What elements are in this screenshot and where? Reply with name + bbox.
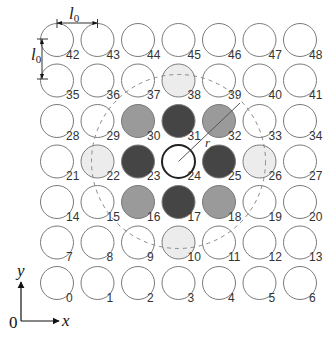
site-index-label: 31 bbox=[188, 129, 202, 143]
lattice-site: 46 bbox=[203, 24, 242, 62]
site-index-label: 14 bbox=[66, 210, 80, 224]
site-index-label: 2 bbox=[147, 291, 154, 305]
site-index-label: 23 bbox=[147, 169, 161, 183]
site-index-label: 12 bbox=[269, 250, 283, 264]
site-index-label: 38 bbox=[188, 88, 202, 102]
lattice-site: 28 bbox=[41, 105, 80, 143]
site-index-label: 16 bbox=[147, 210, 161, 224]
lattice-site: 3 bbox=[162, 267, 195, 305]
lattice-site: 40 bbox=[243, 64, 282, 102]
lattice-site: 12 bbox=[243, 226, 282, 264]
lattice-site: 2 bbox=[122, 267, 155, 305]
lattice-site: 38 bbox=[162, 64, 201, 102]
lattice-site: 41 bbox=[284, 64, 323, 102]
lattice-site: 25 bbox=[203, 145, 242, 183]
site-index-label: 4 bbox=[228, 291, 235, 305]
lattice-site: 24 bbox=[162, 145, 201, 183]
site-index-label: 30 bbox=[147, 129, 161, 143]
lattice-diagram: 0123456789101112131415161718192021222324… bbox=[0, 0, 334, 339]
site-index-label: 48 bbox=[309, 48, 323, 62]
lattice-site: 5 bbox=[243, 267, 276, 305]
lattice-site: 8 bbox=[81, 226, 114, 264]
lattice-site: 9 bbox=[122, 226, 155, 264]
lattice-site: 26 bbox=[243, 145, 282, 183]
site-index-label: 35 bbox=[66, 88, 80, 102]
site-index-label: 44 bbox=[147, 48, 161, 62]
site-index-label: 15 bbox=[107, 210, 121, 224]
site-index-label: 39 bbox=[228, 88, 242, 102]
site-index-label: 46 bbox=[228, 48, 242, 62]
x-axis-label: x bbox=[61, 311, 70, 330]
lattice-site: 21 bbox=[41, 145, 80, 183]
site-index-label: 34 bbox=[309, 129, 323, 143]
site-index-label: 0 bbox=[66, 291, 73, 305]
lattice-site: 31 bbox=[162, 105, 201, 143]
lattice-cells: 0123456789101112131415161718192021222324… bbox=[41, 24, 323, 305]
site-index-label: 42 bbox=[66, 48, 80, 62]
cutoff-radius-label: rc bbox=[205, 135, 214, 152]
lattice-site: 16 bbox=[122, 186, 161, 224]
lattice-site: 4 bbox=[203, 267, 236, 305]
lattice-site: 48 bbox=[284, 24, 323, 62]
lattice-site: 30 bbox=[122, 105, 161, 143]
lattice-site: 1 bbox=[81, 267, 114, 305]
site-index-label: 1 bbox=[107, 291, 114, 305]
lattice-site: 11 bbox=[203, 226, 241, 264]
site-index-label: 7 bbox=[66, 250, 73, 264]
site-index-label: 3 bbox=[188, 291, 195, 305]
site-index-label: 8 bbox=[107, 250, 114, 264]
site-index-label: 27 bbox=[309, 169, 323, 183]
site-index-label: 17 bbox=[188, 210, 202, 224]
lattice-site: 6 bbox=[284, 267, 317, 305]
site-index-label: 41 bbox=[309, 88, 323, 102]
y-axis-label: y bbox=[15, 261, 25, 280]
lattice-site: 7 bbox=[41, 226, 74, 264]
site-index-label: 11 bbox=[228, 250, 241, 264]
site-index-label: 40 bbox=[269, 88, 283, 102]
lattice-site: 0 bbox=[41, 267, 74, 305]
site-index-label: 20 bbox=[309, 210, 323, 224]
lattice-site: 20 bbox=[284, 186, 323, 224]
site-index-label: 43 bbox=[107, 48, 121, 62]
site-index-label: 6 bbox=[309, 291, 316, 305]
site-index-label: 37 bbox=[147, 88, 161, 102]
site-index-label: 33 bbox=[269, 129, 283, 143]
lattice-site: 15 bbox=[81, 186, 120, 224]
site-index-label: 19 bbox=[269, 210, 283, 224]
lattice-site: 10 bbox=[162, 226, 201, 264]
lattice-site: 23 bbox=[122, 145, 161, 183]
site-index-label: 5 bbox=[269, 291, 276, 305]
site-index-label: 47 bbox=[269, 48, 283, 62]
site-index-label: 45 bbox=[188, 48, 202, 62]
site-index-label: 29 bbox=[107, 129, 121, 143]
lattice-site: 44 bbox=[122, 24, 161, 62]
lattice-site: 34 bbox=[284, 105, 323, 143]
site-index-label: 26 bbox=[269, 169, 283, 183]
site-index-label: 18 bbox=[228, 210, 242, 224]
lattice-site: 47 bbox=[243, 24, 282, 62]
site-index-label: 24 bbox=[188, 169, 202, 183]
lattice-site: 36 bbox=[81, 64, 120, 102]
site-index-label: 13 bbox=[309, 250, 323, 264]
lattice-site: 17 bbox=[162, 186, 201, 224]
lattice-site: 42 bbox=[41, 24, 80, 62]
origin-label: 0 bbox=[9, 313, 18, 332]
lattice-site: 27 bbox=[284, 145, 323, 183]
site-index-label: 9 bbox=[147, 250, 154, 264]
site-index-label: 32 bbox=[228, 129, 242, 143]
lattice-site: 18 bbox=[203, 186, 242, 224]
lattice-site: 45 bbox=[162, 24, 201, 62]
vertical-spacing-label: l0 bbox=[31, 45, 42, 65]
lattice-site: 43 bbox=[81, 24, 120, 62]
site-index-label: 28 bbox=[66, 129, 80, 143]
site-index-label: 36 bbox=[107, 88, 121, 102]
horizontal-spacing-label: l0 bbox=[69, 4, 80, 24]
site-index-label: 25 bbox=[228, 169, 242, 183]
lattice-site: 22 bbox=[81, 145, 120, 183]
lattice-site: 14 bbox=[41, 186, 80, 224]
site-index-label: 21 bbox=[66, 169, 80, 183]
site-index-label: 22 bbox=[107, 169, 121, 183]
site-index-label: 10 bbox=[188, 250, 202, 264]
lattice-site: 35 bbox=[41, 64, 80, 102]
lattice-site: 19 bbox=[243, 186, 282, 224]
